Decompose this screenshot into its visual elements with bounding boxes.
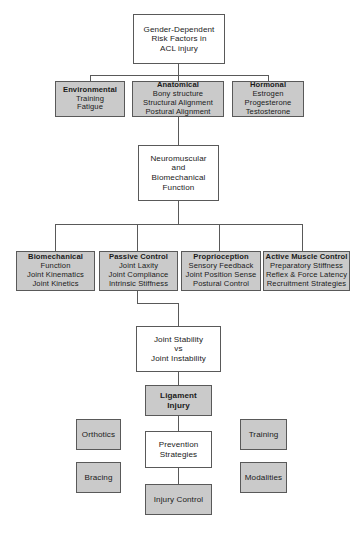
node-ligament-injury-line2: Injury <box>167 401 190 411</box>
edge-bus-to-proprioception <box>219 224 220 251</box>
node-passive-control: Passive Control Joint Laxity Joint Compl… <box>99 251 178 291</box>
node-joint-stability-line3: Joint Instability <box>151 354 206 364</box>
flowchart-canvas: Gender-Dependent Risk Factors in ACL inj… <box>0 0 357 534</box>
node-root: Gender-Dependent Risk Factors in ACL inj… <box>133 14 225 64</box>
node-biomechanical-item3: Joint Kinetics <box>32 280 78 289</box>
edge-stability-to-ligament <box>178 372 179 385</box>
node-neuromuscular-line2: and <box>172 163 186 173</box>
edge-passive-control-down <box>137 291 138 303</box>
node-biomechanical: Biomechanical Function Joint Kinematics … <box>16 251 95 291</box>
edge-root-down <box>178 64 179 75</box>
edge-join-tier2-to-stability <box>137 303 178 304</box>
edge-bus-to-active-muscle-control <box>302 224 303 251</box>
node-anatomical-item3: Postural Alignment <box>145 108 210 117</box>
node-environmental: Environmental Training Fatigue <box>55 81 125 117</box>
node-ligament-injury: Ligament Injury <box>145 385 212 416</box>
node-ligament-injury-line1: Ligament <box>160 391 197 401</box>
edge-stability-up <box>178 303 179 326</box>
node-anatomical: Anatomical Bony structure Structural Ali… <box>132 81 224 117</box>
node-orthotics: Orthotics <box>76 419 121 450</box>
edge-bus-to-passive-control <box>137 224 138 251</box>
node-proprioception-item3: Postural Control <box>193 280 249 289</box>
node-joint-stability-line1: Joint Stability <box>154 335 203 345</box>
node-training: Training <box>240 419 287 450</box>
node-orthotics-label: Orthotics <box>82 430 115 440</box>
edge-prevention-to-injury-control <box>178 468 179 484</box>
node-prevention-strategies-line2: Strategies <box>160 450 197 460</box>
edge-anatomical-to-neuromuscular <box>178 117 179 145</box>
node-bracing-label: Bracing <box>84 473 112 483</box>
node-joint-stability-line2: vs <box>174 344 182 354</box>
node-active-muscle-control-item3: Recruitment Strategies <box>267 280 346 289</box>
node-root-line3: ACL injury <box>160 44 198 54</box>
node-joint-stability: Joint Stability vs Joint Instability <box>136 326 221 372</box>
node-modalities: Modalities <box>240 462 287 493</box>
node-bracing: Bracing <box>76 462 121 493</box>
node-modalities-label: Modalities <box>245 473 282 483</box>
node-injury-control: Injury Control <box>145 484 212 515</box>
edge-bus-tier2 <box>55 224 303 225</box>
node-prevention-strategies-line1: Prevention <box>159 440 199 450</box>
node-neuromuscular-line1: Neuromuscular <box>150 154 206 164</box>
edge-ligament-to-prevention <box>178 416 179 431</box>
node-passive-control-item3: Intrinsic Stiffness <box>109 280 168 289</box>
node-neuromuscular-line4: Function <box>163 183 195 193</box>
node-proprioception: Proprioception Sensory Feedback Joint Po… <box>181 251 261 291</box>
node-root-line2: Risk Factors in <box>151 34 206 44</box>
node-neuromuscular: Neuromuscular and Biomechanical Function <box>138 145 219 201</box>
node-prevention-strategies: Prevention Strategies <box>145 431 212 468</box>
node-training-label: Training <box>249 430 279 440</box>
node-hormonal-item3: Testosterone <box>246 108 291 117</box>
node-root-line1: Gender-Dependent <box>144 25 215 35</box>
edge-neuromuscular-down <box>178 201 179 224</box>
node-active-muscle-control: Active Muscle Control Preparatory Stiffn… <box>263 251 350 291</box>
edge-bus-to-biomechanical <box>55 224 56 251</box>
node-hormonal: Hormonal Estrogen Progesterone Testoster… <box>232 81 304 117</box>
node-environmental-item2: Fatigue <box>77 103 103 112</box>
edge-bus-tier1 <box>90 75 268 76</box>
node-injury-control-label: Injury Control <box>154 495 204 505</box>
node-neuromuscular-line3: Biomechanical <box>152 173 206 183</box>
